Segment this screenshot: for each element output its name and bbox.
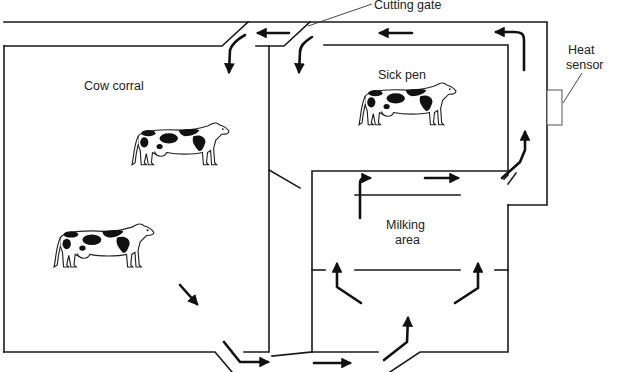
cow-sick-pen xyxy=(359,83,456,125)
corral-top-passage-wall xyxy=(4,22,248,46)
corral-right-wall xyxy=(244,46,269,352)
arrow-into-milking xyxy=(384,318,408,360)
arrow-corral-diagonal xyxy=(180,285,197,304)
corral-bottom-wall xyxy=(4,352,232,372)
sick-pen-label: Sick pen xyxy=(378,68,426,82)
heat-sensor-label-line1: Heat xyxy=(568,43,594,57)
arrow-top-left-lane xyxy=(360,178,370,218)
cow-corral-2 xyxy=(54,224,154,267)
heat-sensor-box xyxy=(547,90,562,125)
arrow-into-sick-pen xyxy=(299,37,312,72)
cow-corral-1 xyxy=(132,123,229,165)
floor-plan xyxy=(0,0,617,372)
cow-corral-label: Cow corral xyxy=(84,79,144,93)
heat-sensor-label-line2: sensor xyxy=(566,58,604,72)
arrow-up-left-corner xyxy=(496,32,524,70)
milking-area-label-line1: Milking xyxy=(386,218,425,232)
corral-side-gate xyxy=(269,170,300,188)
cutting-gate-label: Cutting gate xyxy=(374,0,441,12)
barn-flow-diagram: Cutting gate Heat sensor Cow corral Sick… xyxy=(0,0,617,372)
heat-sensor-leader xyxy=(563,73,582,103)
arrow-into-corral xyxy=(229,35,245,72)
exit-gate-diagonal xyxy=(508,173,516,184)
bottom-entry-wall xyxy=(272,352,312,356)
milking-area-label-line2: area xyxy=(395,233,420,247)
